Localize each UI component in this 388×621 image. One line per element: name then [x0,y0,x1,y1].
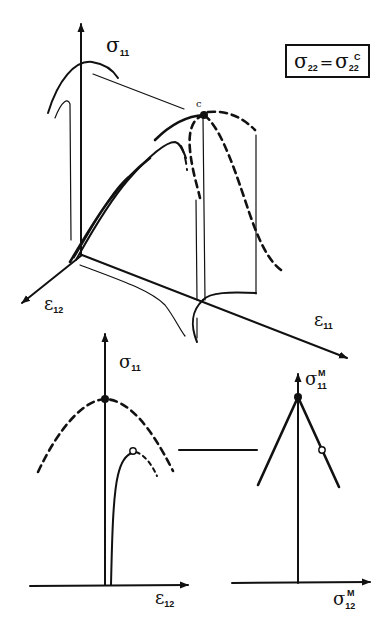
drop-line-left [196,200,197,300]
diagram-canvas: c σ11 ε12 ε11 σ22=σ22 C σ11 ε [0,0,388,621]
response-curve-solid [111,453,132,585]
eps12-axis-left [30,585,188,586]
sigma12M-sup: M [347,588,355,598]
floor-curve-lower [193,300,203,342]
failure-line-right [298,397,339,487]
peak-point-right [294,393,302,401]
failure-point-open-right [319,447,325,453]
drop-line-peak [203,117,205,300]
sigma12M-axis [232,582,370,583]
plot-left: σ11 ε12 [30,334,188,609]
plot-right: σ11 M σ12 M [232,368,370,611]
failure-point-open [130,448,136,454]
peak-label: c [196,98,202,109]
failure-line-left [258,397,298,485]
eps12-label-left: ε12 [155,587,174,609]
condition-box: σ22=σ22 C [286,45,369,77]
curve-lower-softening [181,146,187,170]
peak-point-c [200,111,208,119]
curve-lower-branch [76,142,186,260]
projection-line-top [93,74,184,109]
dashed-branch-middle [204,115,284,272]
back-projection-inner-curve [55,101,71,240]
response-curve-dashed [136,452,157,476]
peak-point-left [101,395,109,403]
sigma11-label-3d: σ11 [106,33,129,58]
dashed-branch-left [190,115,204,198]
sigma11-label-left: σ11 [119,351,141,373]
eps11-label-3d: ε11 [314,309,333,331]
eps11-axis-3d [82,255,347,358]
sigma11M-sup: M [318,368,326,378]
condition-sup: C [354,52,361,62]
floor-curve-right [203,293,256,300]
back-projection-curve [48,62,118,113]
eps12-label-3d: ε12 [44,293,63,315]
